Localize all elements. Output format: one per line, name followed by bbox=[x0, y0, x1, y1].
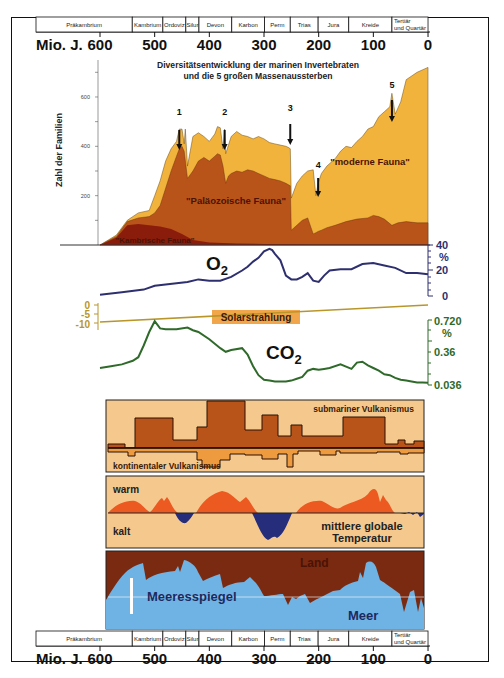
period-label: Perm bbox=[270, 22, 284, 28]
paleozoic-fauna-label: "Paläozoische Fauna" bbox=[186, 195, 286, 206]
solar-label: Solarstrahlung bbox=[221, 312, 292, 323]
age-label: 300 bbox=[251, 36, 276, 53]
age-label: 400 bbox=[197, 650, 222, 667]
period-label: Silur bbox=[186, 636, 198, 642]
bottom-time-axis: PräkambriumKambriumOrdovizSilurDevonKarb… bbox=[36, 631, 432, 667]
o2-tick-20: 20 bbox=[436, 264, 448, 276]
period-label: Devon bbox=[207, 636, 224, 642]
diversity-title-line2: und die 5 großen Massenaussterben bbox=[184, 71, 333, 81]
axis-unit-label: Mio. J. bbox=[36, 650, 83, 667]
top-time-axis: PräkambriumKambriumOrdovizSilurDevonKarb… bbox=[36, 17, 432, 53]
modern-fauna-label: "moderne Fauna" bbox=[330, 156, 410, 167]
period-label: Tertiär bbox=[394, 632, 411, 638]
period-label: Ordoviz bbox=[164, 22, 185, 28]
extinction-label: 2 bbox=[222, 107, 227, 117]
co2-tick-0720: 0.720 bbox=[434, 315, 462, 327]
age-label: 0 bbox=[424, 36, 432, 53]
co2-curve bbox=[100, 321, 428, 383]
period-label: Kreide bbox=[362, 22, 380, 28]
o2-tick-0: 0 bbox=[442, 290, 448, 302]
age-label: 0 bbox=[424, 650, 432, 667]
axis-unit-label: Mio. J. bbox=[36, 36, 83, 53]
continental-volcanism-label: kontinentaler Vulkanismus bbox=[113, 461, 221, 471]
o2-chart: O2 40 % 20 0 bbox=[100, 239, 449, 302]
y-tick-label: 400 bbox=[81, 143, 90, 149]
age-label: 200 bbox=[306, 36, 331, 53]
co2-label: CO2 bbox=[266, 342, 302, 367]
age-label: 500 bbox=[142, 36, 167, 53]
co2-axis bbox=[428, 320, 432, 385]
o2-unit: % bbox=[439, 251, 449, 263]
period-label: Karbon bbox=[238, 22, 257, 28]
y-axis-label: Zahl der Familien bbox=[54, 113, 64, 187]
age-label: 300 bbox=[251, 650, 276, 667]
land-label: Land bbox=[300, 556, 329, 570]
cold-label: kalt bbox=[113, 526, 131, 537]
period-label: Trias bbox=[298, 22, 311, 28]
solar-axis bbox=[94, 303, 98, 330]
extinction-label: 5 bbox=[389, 80, 394, 90]
period-label: Perm bbox=[270, 636, 284, 642]
period-label: Kambrium bbox=[134, 636, 161, 642]
o2-axis bbox=[428, 245, 433, 296]
age-label: 500 bbox=[142, 650, 167, 667]
period-label: Kreide bbox=[362, 636, 380, 642]
co2-tick-036: 0.36 bbox=[434, 346, 455, 358]
period-label: Jura bbox=[328, 636, 340, 642]
temperature-panel: warm kalt mittlere globale Temperatur bbox=[106, 476, 424, 548]
temperature-caption-line1: mittlere globale bbox=[321, 520, 402, 532]
age-label: 600 bbox=[87, 36, 112, 53]
y-ticks: 200400600 bbox=[81, 72, 98, 220]
period-label: und Quartär bbox=[394, 639, 426, 645]
solar-chart: 0 -5 -10 Solarstrahlung bbox=[76, 300, 428, 330]
extinction-label: 4 bbox=[316, 160, 321, 170]
earth-history-figure: PräkambriumKambriumOrdovizSilurDevonKarb… bbox=[0, 0, 504, 678]
volcanism-panel: submariner Vulkanismus kontinentaler Vul… bbox=[106, 400, 424, 472]
temperature-caption-line2: Temperatur bbox=[332, 532, 392, 544]
co2-tick-0036: 0.036 bbox=[434, 379, 462, 391]
warm-label: warm bbox=[112, 484, 139, 495]
sea-level-panel: Meeresspiegel Land Meer bbox=[106, 551, 424, 629]
age-label: 400 bbox=[197, 36, 222, 53]
diversity-chart: 200400600 Zahl der Familien Diversitätse… bbox=[54, 60, 430, 245]
co2-chart: CO2 0.720 % 0.36 0.036 bbox=[100, 315, 462, 391]
y-tick-label: 200 bbox=[81, 193, 90, 199]
cambrian-fauna-label: "Kambrische Fauna" bbox=[115, 236, 194, 245]
y-tick-label: 600 bbox=[81, 94, 90, 100]
period-label: Trias bbox=[298, 636, 311, 642]
o2-label: O2 bbox=[206, 253, 228, 278]
period-label: Karbon bbox=[238, 636, 257, 642]
period-label: Präkambrium bbox=[66, 22, 102, 28]
sea-level-caption: Meeresspiegel bbox=[147, 589, 237, 604]
period-label: und Quartär bbox=[394, 25, 426, 31]
period-label: Devon bbox=[207, 22, 224, 28]
period-label: Tertiär bbox=[394, 18, 411, 24]
sea-label: Meer bbox=[348, 608, 378, 623]
diversity-title-line1: Diversitätsentwicklung der marinen Inver… bbox=[157, 60, 359, 70]
period-label: Ordoviz bbox=[164, 636, 185, 642]
age-label: 100 bbox=[361, 36, 386, 53]
o2-tick-40: 40 bbox=[436, 239, 448, 251]
period-label: Kambrium bbox=[134, 22, 161, 28]
period-label: Jura bbox=[328, 22, 340, 28]
extinction-label: 3 bbox=[288, 103, 293, 113]
solar-tick-minus10: -10 bbox=[76, 319, 91, 330]
o2-curve bbox=[100, 249, 428, 295]
extinction-label: 1 bbox=[177, 107, 182, 117]
submarine-volcanism-label: submariner Vulkanismus bbox=[313, 404, 414, 414]
period-label: Präkambrium bbox=[66, 636, 102, 642]
age-label: 100 bbox=[361, 650, 386, 667]
co2-unit: % bbox=[442, 327, 452, 339]
period-label: Silur bbox=[186, 22, 198, 28]
sea-level-range-marker bbox=[130, 578, 133, 614]
age-label: 600 bbox=[87, 650, 112, 667]
age-label: 200 bbox=[306, 650, 331, 667]
arrow-head-icon bbox=[287, 139, 293, 145]
